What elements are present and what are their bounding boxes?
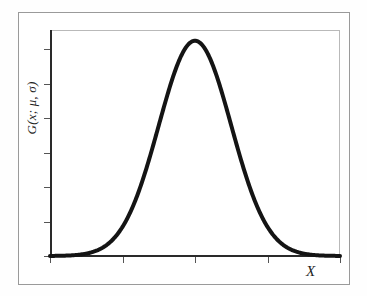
y-axis-tick (44, 187, 50, 188)
y-axis-tick (44, 118, 50, 119)
y-axis-tick (44, 84, 50, 85)
y-axis-tick (44, 49, 50, 50)
y-axis-line (50, 30, 52, 257)
figure-container: G(x; μ, σ) X (0, 0, 367, 296)
x-axis-label: X (306, 263, 315, 280)
y-axis-tick (44, 222, 50, 223)
x-axis-tick (340, 257, 341, 263)
y-axis-label: G(x; μ, σ) (24, 76, 40, 140)
x-axis-tick (123, 257, 124, 263)
x-axis-tick (268, 257, 269, 263)
x-axis-tick (195, 257, 196, 263)
y-axis-tick (44, 153, 50, 154)
plot-area-box (50, 30, 340, 256)
x-axis-tick (50, 257, 51, 263)
